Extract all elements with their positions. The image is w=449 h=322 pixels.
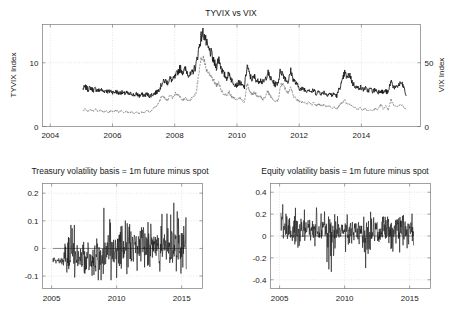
svg-text:2010: 2010: [108, 294, 126, 303]
svg-text:2010: 2010: [228, 131, 246, 140]
top-ylabel-left: TYVIX Index: [9, 53, 18, 98]
svg-text:-0.1: -0.1: [25, 272, 39, 281]
svg-text:2012: 2012: [290, 131, 308, 140]
svg-text:2008: 2008: [166, 131, 184, 140]
top-tick-labels: 200420062008201020122014010050: [30, 59, 434, 140]
top-ylabel-right: VIX Index: [437, 58, 446, 93]
svg-text:2010: 2010: [336, 294, 354, 303]
equity-tick-labels: 2005201020150.40.20-0.2-0.4: [253, 188, 419, 302]
svg-text:10: 10: [30, 59, 39, 68]
panel-tyvix-vs-vix: TYVIX vs VIX 200420062008201020122014010…: [9, 8, 446, 140]
matlab-figure-svg: TYVIX vs VIX 200420062008201020122014010…: [0, 0, 449, 322]
top-chart-title: TYVIX vs VIX: [205, 8, 257, 18]
svg-text:0.1: 0.1: [27, 217, 39, 226]
series-equity-basis-line: [281, 204, 414, 271]
equity-chart-title: Equity volatility basis = 1m future minu…: [261, 166, 429, 176]
figure-canvas: TYVIX vs VIX 200420062008201020122014010…: [0, 0, 449, 322]
svg-text:0.2: 0.2: [27, 189, 39, 198]
svg-text:2005: 2005: [271, 294, 289, 303]
treasury-chart-title: Treasury volatility basis = 1m future mi…: [31, 166, 209, 176]
svg-text:0: 0: [262, 232, 267, 241]
svg-text:-0.2: -0.2: [253, 254, 267, 263]
panel-treasury-basis: Treasury volatility basis = 1m future mi…: [25, 166, 209, 303]
svg-text:2015: 2015: [401, 294, 419, 303]
svg-text:0: 0: [425, 123, 430, 132]
svg-text:-0.4: -0.4: [253, 276, 267, 285]
svg-text:2004: 2004: [41, 131, 59, 140]
svg-text:2006: 2006: [104, 131, 122, 140]
svg-text:50: 50: [425, 59, 434, 68]
panel-equity-basis: Equity volatility basis = 1m future minu…: [253, 166, 431, 303]
series-treasury-basis-line: [53, 203, 186, 280]
svg-text:0.4: 0.4: [255, 188, 267, 197]
svg-text:0: 0: [34, 244, 39, 253]
svg-text:2014: 2014: [352, 131, 370, 140]
svg-text:0.2: 0.2: [255, 210, 267, 219]
svg-text:2005: 2005: [43, 294, 61, 303]
svg-text:0: 0: [34, 123, 39, 132]
svg-text:2015: 2015: [173, 294, 191, 303]
